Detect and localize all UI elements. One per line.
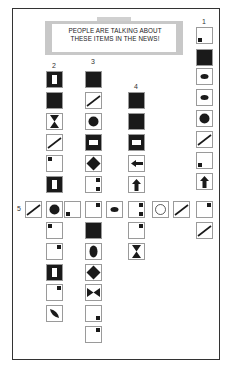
square-bottom-right-icon bbox=[86, 306, 101, 321]
column-3-cell[interactable] bbox=[85, 155, 102, 172]
hourglass-icon bbox=[129, 244, 144, 259]
column-3-cell[interactable] bbox=[85, 243, 102, 260]
row-5-cell[interactable] bbox=[46, 201, 63, 218]
column-label-2: 2 bbox=[52, 62, 56, 69]
filled-square-icon bbox=[47, 93, 62, 108]
row-5-cell[interactable] bbox=[106, 201, 123, 218]
two-squares-right-icon bbox=[86, 177, 101, 192]
banner-top-rail bbox=[45, 21, 183, 24]
hollow-bar-icon bbox=[47, 177, 62, 192]
banner-line-2: THESE ITEMS IN THE NEWS! bbox=[55, 35, 175, 43]
column-label-4: 4 bbox=[134, 83, 138, 90]
two-squares-right-icon bbox=[129, 202, 144, 217]
square-top-right-icon bbox=[47, 244, 62, 259]
row-label-5: 5 bbox=[17, 205, 21, 212]
diagonal-line-icon bbox=[174, 202, 189, 217]
banner-line-1: PEOPLE ARE TALKING ABOUT bbox=[55, 27, 175, 35]
row-5-cell[interactable] bbox=[85, 201, 102, 218]
square-top-right-icon bbox=[47, 285, 62, 300]
diamond-icon bbox=[86, 156, 101, 171]
column-4-cell[interactable] bbox=[128, 176, 145, 193]
column-4-cell[interactable] bbox=[128, 243, 145, 260]
column-3-cell[interactable] bbox=[85, 305, 102, 322]
headline-banner: PEOPLE ARE TALKING ABOUT THESE ITEMS IN … bbox=[45, 17, 183, 55]
column-1-cell[interactable] bbox=[196, 110, 213, 127]
diagonal-line-icon bbox=[197, 132, 212, 147]
puzzle-frame bbox=[12, 8, 220, 360]
column-2-cell[interactable] bbox=[46, 134, 63, 151]
column-2-cell[interactable] bbox=[46, 113, 63, 130]
left-arrow-icon bbox=[129, 156, 144, 171]
square-top-right-icon bbox=[197, 202, 212, 217]
column-3-cell[interactable] bbox=[85, 176, 102, 193]
row-5-cell[interactable] bbox=[196, 201, 213, 218]
column-1-cell[interactable] bbox=[196, 173, 213, 190]
column-1-cell[interactable] bbox=[196, 152, 213, 169]
column-2-cell[interactable] bbox=[46, 155, 63, 172]
leaf-icon bbox=[47, 306, 62, 321]
column-4-cell[interactable] bbox=[128, 113, 145, 130]
filled-square-icon bbox=[197, 50, 212, 65]
column-1-cell[interactable] bbox=[196, 131, 213, 148]
filled-square-icon bbox=[86, 223, 101, 238]
hourglass-icon bbox=[47, 114, 62, 129]
column-1-cell[interactable] bbox=[196, 27, 213, 44]
column-4-cell[interactable] bbox=[128, 222, 145, 239]
column-3-cell[interactable] bbox=[85, 284, 102, 301]
row-5-cell[interactable] bbox=[128, 201, 145, 218]
column-2-cell[interactable] bbox=[46, 222, 63, 239]
square-bottom-left-icon bbox=[65, 202, 80, 217]
column-4-cell[interactable] bbox=[128, 92, 145, 109]
bowtie-icon bbox=[86, 285, 101, 300]
square-bottom-left-icon bbox=[197, 28, 212, 43]
column-4-cell[interactable] bbox=[128, 155, 145, 172]
column-2-cell[interactable] bbox=[46, 176, 63, 193]
column-2-cell[interactable] bbox=[46, 243, 63, 260]
ellipse-icon bbox=[197, 69, 212, 84]
square-top-left-icon bbox=[47, 156, 62, 171]
row-5-cell[interactable] bbox=[152, 201, 169, 218]
square-top-left-icon bbox=[47, 223, 62, 238]
column-label-1: 1 bbox=[202, 18, 206, 25]
square-top-right-icon bbox=[129, 223, 144, 238]
column-3-cell[interactable] bbox=[85, 92, 102, 109]
circle-icon bbox=[197, 111, 212, 126]
row-5-cell[interactable] bbox=[173, 201, 190, 218]
banner-bottom-rail bbox=[45, 52, 183, 55]
column-1-cell[interactable] bbox=[196, 68, 213, 85]
square-top-right-icon bbox=[86, 327, 101, 342]
column-2-cell[interactable] bbox=[46, 284, 63, 301]
circle-icon bbox=[47, 202, 62, 217]
column-3-cell[interactable] bbox=[85, 113, 102, 130]
circle-icon bbox=[86, 114, 101, 129]
hollow-circle-icon bbox=[153, 202, 168, 217]
diagonal-line-icon bbox=[47, 135, 62, 150]
column-3-cell[interactable] bbox=[85, 71, 102, 88]
diamond-icon bbox=[86, 265, 101, 280]
column-1-cell[interactable] bbox=[196, 222, 213, 239]
column-2-cell[interactable] bbox=[46, 92, 63, 109]
column-3-cell[interactable] bbox=[85, 326, 102, 343]
column-label-3: 3 bbox=[91, 58, 95, 65]
column-1-cell[interactable] bbox=[196, 49, 213, 66]
hollow-bar-icon bbox=[47, 265, 62, 280]
diagonal-line-icon bbox=[197, 223, 212, 238]
vertical-ellipse-icon bbox=[86, 244, 101, 259]
banner-left-post bbox=[45, 21, 52, 55]
hollow-bar-icon bbox=[47, 72, 62, 87]
filled-square-icon bbox=[129, 114, 144, 129]
row-5-cell[interactable] bbox=[64, 201, 81, 218]
hollow-rect-icon bbox=[129, 135, 144, 150]
column-3-cell[interactable] bbox=[85, 134, 102, 151]
ellipse-icon bbox=[197, 90, 212, 105]
column-3-cell[interactable] bbox=[85, 222, 102, 239]
column-3-cell[interactable] bbox=[85, 264, 102, 281]
square-bottom-left-icon bbox=[197, 153, 212, 168]
row-5-cell[interactable] bbox=[25, 201, 42, 218]
column-2-cell[interactable] bbox=[46, 305, 63, 322]
column-2-cell[interactable] bbox=[46, 264, 63, 281]
diagonal-line-icon bbox=[26, 202, 41, 217]
column-1-cell[interactable] bbox=[196, 89, 213, 106]
column-2-cell[interactable] bbox=[46, 71, 63, 88]
column-4-cell[interactable] bbox=[128, 134, 145, 151]
